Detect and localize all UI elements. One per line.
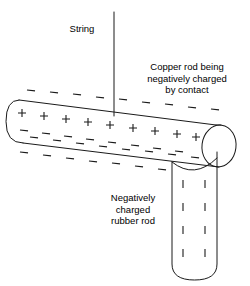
- copper-plus-charges: [18, 109, 200, 141]
- copper-rod-label: Copper rod being negatively charged by c…: [128, 61, 246, 96]
- string-label: String: [52, 23, 112, 35]
- copper-inner-minus-charges: [20, 130, 183, 152]
- copper-rod-top-edge: [19, 100, 216, 125]
- copper-rod-left-cap: [6, 100, 23, 143]
- copper-rod-bottom-edge: [23, 143, 219, 167]
- copper-rod-right-face: [200, 123, 239, 169]
- copper-rod-charges: [18, 90, 219, 170]
- diagram-canvas: [0, 0, 250, 286]
- copper-outer-minus-bottom: [20, 152, 166, 170]
- rubber-rod-charges: [183, 180, 205, 257]
- rubber-rod-group: [172, 152, 217, 280]
- copper-rod-group: [6, 100, 238, 169]
- rubber-rod-body: [172, 152, 217, 280]
- physics-diagram: String Copper rod being negatively charg…: [0, 0, 250, 286]
- rubber-rod-label: Negatively charged rubber rod: [92, 192, 174, 227]
